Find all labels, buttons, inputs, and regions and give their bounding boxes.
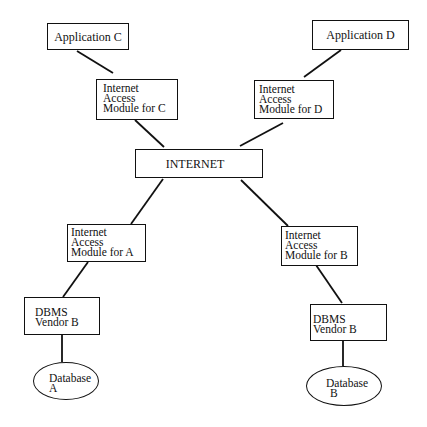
node-internet-access-module-d: Internet Access Module for D — [254, 80, 334, 119]
edge-iamc-internet — [135, 120, 164, 147]
node-internet-access-module-c: Internet Access Module for C — [96, 79, 178, 120]
edge-internet-iamb — [241, 180, 288, 226]
node-label-line3: Module for D — [259, 105, 322, 115]
edge-appd-iamd — [304, 50, 341, 77]
node-label-line2: Vendor B — [313, 325, 357, 335]
node-label: Application C — [54, 31, 122, 43]
node-database-b: Database B — [306, 366, 382, 406]
node-internet-access-module-b: Internet Access Module for B — [281, 226, 358, 266]
node-label: INTERNET — [166, 158, 225, 170]
node-dbms-vendor-a-side: DBMS Vendor B — [24, 297, 100, 335]
node-label-line2: A — [49, 384, 57, 393]
node-database-a: Database A — [33, 362, 99, 400]
node-internet-access-module-a: Internet Access Module for A — [67, 224, 146, 262]
node-application-d: Application D — [312, 20, 409, 50]
node-label-line3: Module for C — [103, 104, 166, 114]
node-label-line3: Module for B — [285, 251, 348, 261]
edge-iamb-dbmsb — [316, 265, 342, 303]
edge-iama-dbmsa — [63, 262, 88, 297]
edge-iamd-internet — [240, 123, 283, 146]
node-label: Application D — [326, 29, 394, 41]
node-label-line3: Module for A — [71, 248, 134, 258]
node-dbms-vendor-b-side: DBMS Vendor B — [310, 304, 387, 341]
node-label-line2: B — [330, 389, 338, 398]
node-internet: INTERNET — [135, 149, 263, 178]
edge-appc-iamc — [77, 51, 113, 73]
node-application-c: Application C — [47, 23, 129, 50]
node-label-line2: Vendor B — [35, 318, 79, 328]
edge-internet-iama — [131, 179, 163, 224]
